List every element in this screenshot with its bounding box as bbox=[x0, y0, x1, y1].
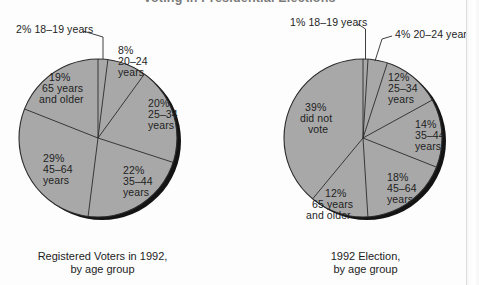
pie-label-left-18-19: 2% 18–19 years bbox=[16, 24, 93, 36]
callout-leader-right-0 bbox=[358, 24, 366, 59]
pie-label-left-25-34-years: years bbox=[148, 120, 174, 132]
pie-label-right-35-44-years: years bbox=[415, 141, 441, 153]
pie-label-right-45-64-years: years bbox=[387, 194, 413, 206]
pie-charts-svg bbox=[0, 0, 479, 285]
pie-label-right-25-34-years: years bbox=[388, 94, 414, 106]
page-edge-shadow bbox=[466, 0, 479, 285]
pie-label-right-20-24: 4% 20–24 years bbox=[395, 29, 472, 41]
pie-label-left-35-44-years: years bbox=[123, 187, 149, 199]
page-edge-line bbox=[466, 0, 467, 285]
pie-charts-container: 2% 18–19 years 8% 20–24 years 20% 25–34 … bbox=[0, 0, 479, 285]
pie-label-left-20-24-years: years bbox=[118, 67, 144, 79]
scanned-figure-page: Voting in Presidential Elections bbox=[0, 0, 479, 285]
pie-label-right-did-not-vote-line2: vote bbox=[308, 124, 328, 136]
caption-left-line2: by age group bbox=[0, 263, 205, 277]
caption-left-line1: Registered Voters in 1992, bbox=[0, 250, 205, 264]
pie-label-right-18-19: 1% 18–19 years bbox=[290, 17, 367, 29]
pie-label-left-65-plus-older: and older bbox=[39, 94, 84, 106]
pie-label-right-65-plus-older: and older bbox=[306, 210, 351, 222]
caption-right-line1: 1992 Election, bbox=[263, 250, 468, 264]
callout-leader-right-1 bbox=[375, 36, 392, 61]
caption-right-line2: by age group bbox=[263, 263, 468, 277]
pie-label-left-45-64-years: years bbox=[43, 175, 69, 187]
